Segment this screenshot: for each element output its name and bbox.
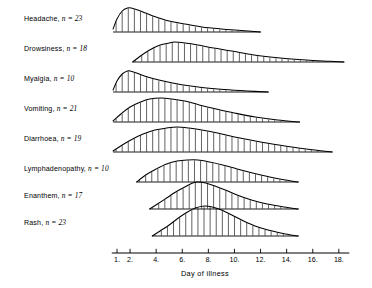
symptom-label-enanthem: Enanthem, n = 17: [24, 192, 82, 200]
curve-hatch-fill: [153, 183, 287, 209]
curve-hatch-fill: [140, 160, 286, 181]
symptom-name: Headache,: [24, 15, 62, 23]
symptom-sample-size: n = 10: [88, 164, 109, 173]
symptom-label-myalgia: Myalgia, n = 10: [24, 75, 74, 83]
x-tick-label-4: 4.: [146, 257, 166, 264]
x-tick-label-10: 10.: [224, 257, 244, 264]
symptom-name: Drowsiness,: [24, 45, 66, 53]
x-tick-label-8: 8.: [198, 257, 218, 264]
x-tick-label-14: 14.: [277, 257, 297, 264]
symptom-sample-size: n = 10: [54, 74, 75, 83]
curve-lymphadenopathy: [137, 160, 299, 182]
curve-outline: [152, 206, 298, 236]
symptom-sample-size: n = 19: [61, 134, 82, 143]
curve-outline: [137, 160, 299, 182]
curve-myalgia: [113, 71, 268, 92]
curve-hatch-fill: [155, 207, 289, 236]
x-tick-label-16: 16.: [303, 257, 323, 264]
x-tick-label-6: 6.: [172, 257, 192, 264]
symptom-sample-size: n = 23: [62, 14, 83, 23]
curve-hatch-fill: [116, 128, 317, 152]
curve-drowsiness: [133, 42, 344, 62]
curve-outline: [133, 42, 344, 62]
symptom-name: Enanthem,: [24, 192, 62, 200]
curve-outline: [150, 182, 299, 209]
symptom-label-drowsiness: Drowsiness, n = 18: [24, 45, 87, 53]
x-tick-label-12: 12.: [251, 257, 271, 264]
symptom-name: Rash,: [24, 219, 45, 227]
symptom-label-diarrhoea: Diarrhoea, n = 19: [24, 135, 81, 143]
curve-enanthem: [150, 182, 299, 209]
curve-outline: [113, 71, 268, 92]
symptom-name: Vomiting,: [24, 105, 57, 113]
x-axis-title: Day of illness: [181, 270, 229, 277]
curve-hatch-fill: [116, 71, 244, 91]
curve-outline: [113, 98, 300, 122]
curve-hatch-fill: [116, 8, 244, 31]
ridgeline-chart: [0, 0, 372, 288]
curve-vomiting: [113, 98, 300, 122]
symptom-label-lymphadenopathy: Lymphadenopathy, n = 10: [24, 165, 109, 173]
symptom-sample-size: n = 23: [45, 218, 66, 227]
x-tick-label-2: 2.: [120, 257, 140, 264]
curve-rash: [152, 206, 298, 236]
symptom-curve-group: [113, 8, 344, 236]
symptom-label-rash: Rash, n = 23: [24, 219, 66, 227]
symptom-name: Myalgia,: [24, 75, 54, 83]
curve-diarrhoea: [113, 127, 332, 152]
x-axis: [112, 249, 350, 253]
symptom-sample-size: n = 17: [62, 191, 83, 200]
curve-outline: [113, 8, 260, 32]
symptom-name: Lymphadenopathy,: [24, 165, 88, 173]
figure-panel: Headache, n = 23Drowsiness, n = 18Myalgi…: [0, 0, 372, 288]
symptom-sample-size: n = 21: [57, 104, 78, 113]
symptom-sample-size: n = 18: [66, 44, 87, 53]
curve-headache: [113, 8, 260, 32]
symptom-label-headache: Headache, n = 23: [24, 15, 82, 23]
x-tick-label-18: 18.: [329, 257, 349, 264]
curve-outline: [113, 127, 332, 152]
symptom-label-vomiting: Vomiting, n = 21: [24, 105, 77, 113]
symptom-name: Diarrhoea,: [24, 135, 61, 143]
